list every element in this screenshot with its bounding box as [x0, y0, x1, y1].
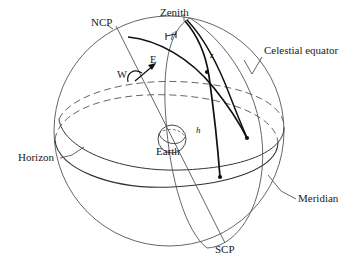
label-zenith: Zenith [160, 7, 189, 18]
polar-axis-line [116, 26, 225, 243]
label-latitude-angle: f [171, 31, 174, 40]
label-celestial-equator: Celestial equator [264, 45, 338, 56]
rotation-arrow [128, 63, 156, 82]
label-scp: SCP [215, 244, 235, 255]
celestial-sphere-drawing [0, 0, 356, 268]
label-zenith-distance: z [210, 51, 214, 60]
star-marker-lower [245, 136, 249, 140]
vertical-circle-arc [185, 21, 220, 177]
earth-equator-front [159, 134, 185, 144]
horizon-back-arc [55, 95, 278, 143]
label-altitude: h [196, 126, 201, 135]
horizon-foot-marker [218, 175, 222, 179]
label-earth: Earth [156, 146, 180, 157]
leader-horizon [60, 147, 84, 158]
label-horizon: Horizon [18, 152, 54, 163]
label-ncp: NCP [91, 17, 112, 28]
horizon-circle [55, 95, 278, 188]
star-marker-upper [205, 70, 209, 74]
leader-meridian [268, 175, 296, 199]
earth-equator-back [159, 129, 185, 137]
celestial-sphere-figure: NCP Zenith Celestial equator Meridian Ho… [0, 0, 356, 268]
label-meridian: Meridian [298, 193, 338, 204]
label-west-direction: W [117, 70, 127, 81]
label-east-direction: E [150, 55, 156, 66]
equator-back-arc [59, 81, 284, 128]
